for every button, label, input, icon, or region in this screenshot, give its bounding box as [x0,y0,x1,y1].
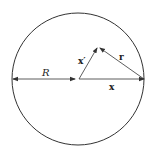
vector-diagram: R x′ r x [0,0,155,157]
r-label: r [119,52,124,62]
x-prime-label: x′ [78,56,86,66]
radius-label: R [41,67,50,78]
x-label: x [109,82,115,92]
